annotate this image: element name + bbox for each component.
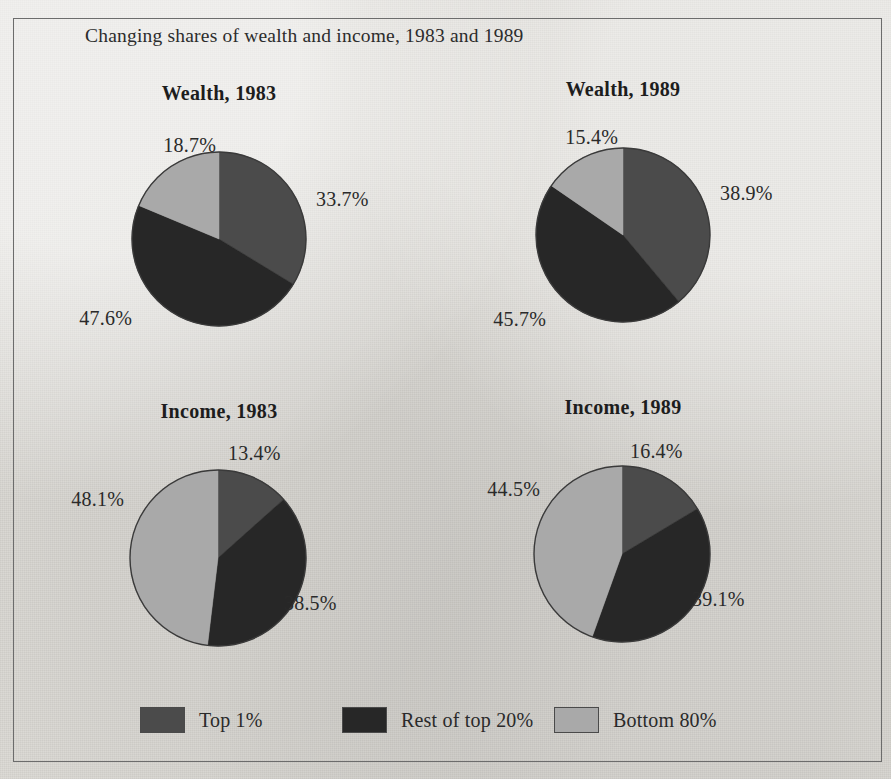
legend-swatch-top-1 (140, 707, 185, 733)
slice-label-bottom-80: 18.7% (163, 134, 216, 157)
legend-label-rest-of-top-20: Rest of top 20% (401, 709, 533, 732)
pie-slices-income-1983 (130, 470, 306, 646)
pie-svg-income-1983 (128, 468, 308, 648)
panel-title-income-1983: Income, 1983 (88, 400, 350, 423)
slice-label-rest-of-top-20: 39.1% (692, 588, 745, 611)
pie-chart-income-1983 (128, 468, 308, 648)
slice-label-bottom-80: 44.5% (487, 478, 540, 501)
panel-title-income-1989: Income, 1989 (492, 396, 754, 419)
slice-label-top-1: 16.4% (630, 440, 683, 463)
pie-svg-wealth-1983 (130, 150, 308, 328)
slice-label-top-1: 13.4% (228, 442, 281, 465)
panel-title-wealth-1983: Wealth, 1983 (88, 82, 350, 105)
pie-svg-income-1989 (532, 464, 712, 644)
slice-label-rest-of-top-20: 45.7% (493, 308, 546, 331)
pie-svg-wealth-1989 (534, 146, 712, 324)
slice-label-bottom-80: 15.4% (565, 126, 618, 149)
legend-label-top-1: Top 1% (199, 709, 263, 732)
legend-swatch-bottom-80 (554, 707, 599, 733)
slice-label-rest-of-top-20: 38.5% (284, 592, 337, 615)
panel-income-1983: Income, 1983 13.4% 38.5% 48.1% (88, 400, 350, 662)
legend-item-bottom-80: Bottom 80% (554, 703, 717, 737)
panel-title-wealth-1989: Wealth, 1989 (492, 78, 754, 101)
pie-chart-income-1989 (532, 464, 712, 644)
legend-item-rest-of-top-20: Rest of top 20% (342, 703, 533, 737)
figure-title: Changing shares of wealth and income, 19… (85, 25, 524, 47)
pie-chart-wealth-1989 (534, 146, 712, 324)
pie-slices-wealth-1989 (536, 148, 710, 322)
slice-label-bottom-80: 48.1% (71, 488, 124, 511)
chart-legend: Top 1% Rest of top 20% Bottom 80% (140, 703, 760, 743)
slice-label-rest-of-top-20: 47.6% (79, 307, 132, 330)
slice-label-top-1: 33.7% (316, 188, 369, 211)
legend-item-top-1: Top 1% (140, 703, 263, 737)
slice-label-top-1: 38.9% (720, 182, 773, 205)
panel-income-1989: Income, 1989 16.4% 39.1% 44.5% (492, 396, 754, 658)
legend-label-bottom-80: Bottom 80% (613, 709, 717, 732)
pie-slices-income-1989 (534, 466, 710, 642)
legend-swatch-rest-of-top-20 (342, 707, 387, 733)
panel-wealth-1989: Wealth, 1989 15.4% 38.9% 45.7% (492, 78, 754, 338)
pie-chart-wealth-1983 (130, 150, 308, 328)
panel-wealth-1983: Wealth, 1983 18.7% 33.7% 47.6% (88, 82, 350, 342)
pie-slices-wealth-1983 (132, 152, 306, 326)
pie-slice-bottom-80 (130, 470, 218, 645)
